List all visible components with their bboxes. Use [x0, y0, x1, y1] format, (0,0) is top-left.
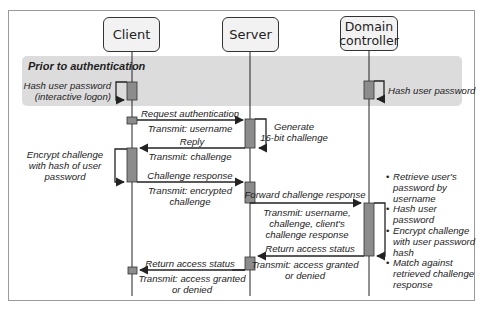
msg-challenge-response-sublabel: Transmit: encrypted challenge [148, 185, 232, 207]
msg-forward-challenge-sublabel: Transmit: username, challenge, client's … [263, 207, 350, 240]
msg-challenge-response-sub2: challenge [148, 196, 232, 207]
actor-client: Client [103, 17, 160, 52]
dc-note-match: Match against retrieved challenge respon… [386, 258, 476, 290]
dc-notes-list: Retrieve user's password by username Has… [386, 172, 476, 291]
msg-encrypt-line2: with hash of user [27, 160, 103, 171]
msg-return-status-client-label: Return access status [145, 258, 235, 269]
dc-note-match-3: response [393, 280, 476, 291]
msg-generate-challenge: Generate 16-bit challenge [260, 121, 328, 143]
msg-forward-sub2: challenge, client's [263, 218, 350, 229]
msg-request-authentication-sublabel: Transmit: username [148, 123, 233, 134]
client-encrypt-activation [127, 148, 137, 182]
msg-forward-challenge-label: Forward challenge response [244, 189, 365, 200]
server-generate-activation [245, 119, 255, 148]
client-band-note: Hash user password (interactive logon) [20, 80, 111, 102]
msg-encrypt-line3: password [27, 171, 103, 182]
msg-encrypt-line1: Encrypt challenge [27, 149, 103, 160]
actor-dc-label-line2: controller [339, 34, 399, 48]
dc-note-retrieve-2: password by [393, 183, 476, 194]
dc-verify-activation [364, 203, 374, 256]
msg-forward-sub1: Transmit: username, [263, 207, 350, 218]
msg-generate-line2: 16-bit challenge [260, 132, 328, 143]
msg-reply-sublabel: Transmit: challenge [148, 151, 231, 162]
client-band-note-line2: (interactive logon) [20, 91, 111, 102]
actor-client-label: Client [113, 28, 151, 42]
actor-server-label: Server [229, 28, 272, 42]
msg-generate-line1: Generate [260, 121, 328, 132]
dc-note-hash-1: Hash user password [393, 204, 476, 226]
actor-domain-controller: Domain controller [340, 16, 398, 51]
dc-note-encrypt-2: with user password [393, 237, 476, 248]
msg-return-client-sub1: Transmit: access granted [139, 273, 246, 284]
msg-return-status-server-sublabel: Transmit: access granted or denied [252, 259, 359, 281]
dc-note-encrypt: Encrypt challenge with user password has… [386, 226, 476, 258]
msg-request-authentication-label: Request authentication [141, 108, 239, 119]
msg-reply-label: Reply [180, 136, 205, 147]
msg-challenge-response-label: Challenge response [147, 170, 232, 181]
msg-return-client-sub2: or denied [139, 284, 246, 295]
actor-server: Server [222, 17, 279, 52]
client-band-note-line1: Hash user password [20, 80, 111, 91]
dc-note-hash: Hash user password [386, 204, 476, 226]
msg-challenge-response-sub1: Transmit: encrypted [148, 185, 232, 196]
msg-return-server-sub2: or denied [252, 270, 359, 281]
dc-note-retrieve: Retrieve user's password by username [386, 172, 476, 204]
msg-return-server-sub1: Transmit: access granted [252, 259, 359, 270]
actor-dc-label-line1: Domain [345, 20, 394, 34]
dc-band-note: Hash user password [388, 85, 475, 96]
band-title: Prior to authentication [28, 60, 145, 72]
msg-return-status-server-label: Return access status [265, 243, 355, 254]
msg-encrypt-challenge: Encrypt challenge with hash of user pass… [27, 149, 103, 182]
msg-forward-sub3: challenge response [263, 229, 350, 240]
msg-return-status-client-sublabel: Transmit: access granted or denied [139, 273, 246, 295]
